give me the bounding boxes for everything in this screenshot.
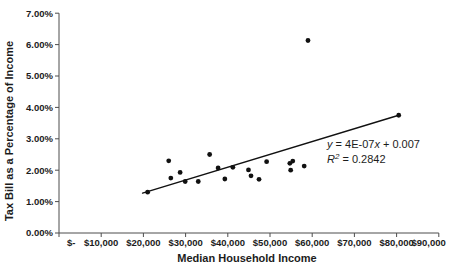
data-point <box>178 170 183 175</box>
data-point <box>257 177 262 182</box>
data-point <box>230 165 235 170</box>
y-tick-label: 0.00% <box>26 227 53 238</box>
data-point <box>168 176 173 181</box>
plot-area: 0.00%1.00%2.00%3.00%4.00%5.00%6.00%7.00%… <box>26 8 446 248</box>
data-point <box>183 179 188 184</box>
y-tick-label: 1.00% <box>26 196 53 207</box>
x-tick-label: $70,000 <box>337 237 371 248</box>
y-tick-label: 4.00% <box>26 102 53 113</box>
data-point <box>216 166 221 171</box>
data-point <box>288 168 293 173</box>
data-point <box>290 159 295 164</box>
data-point <box>207 152 212 157</box>
y-tick-label: 5.00% <box>26 70 53 81</box>
x-tick-label: $40,000 <box>211 237 245 248</box>
x-tick-label: $30,000 <box>168 237 202 248</box>
y-tick-label: 2.00% <box>26 165 53 176</box>
x-tick-label: $60,000 <box>295 237 329 248</box>
trendline-equation: y = 4E-07x + 0.007 <box>326 138 420 150</box>
data-point <box>246 167 251 172</box>
y-tick-label: 7.00% <box>26 8 53 19</box>
scatter-chart: 0.00%1.00%2.00%3.00%4.00%5.00%6.00%7.00%… <box>0 0 449 272</box>
x-tick-label: $10,000 <box>84 237 118 248</box>
y-tick-label: 3.00% <box>26 133 53 144</box>
data-point <box>145 190 150 195</box>
r-squared-label: R2 = 0.2842 <box>327 152 386 165</box>
data-point <box>264 159 269 164</box>
data-point <box>306 38 311 43</box>
x-tick-label: $20,000 <box>126 237 160 248</box>
x-tick-label: $80,000 <box>379 237 413 248</box>
data-point <box>196 179 201 184</box>
y-tick-label: 6.00% <box>26 39 53 50</box>
data-point <box>166 158 171 163</box>
data-point <box>396 113 401 118</box>
data-point <box>222 177 227 182</box>
scatter-figure: 0.00%1.00%2.00%3.00%4.00%5.00%6.00%7.00%… <box>0 0 449 272</box>
x-tick-label: $90,000 <box>411 237 445 248</box>
x-tick-label: $- <box>67 237 75 248</box>
x-tick-label: $50,000 <box>253 237 287 248</box>
y-axis-title: Tax Bill as a Percentage of Income <box>3 41 15 221</box>
data-point <box>302 164 307 169</box>
data-point <box>249 173 254 178</box>
x-axis-title: Median Household Income <box>177 252 316 264</box>
